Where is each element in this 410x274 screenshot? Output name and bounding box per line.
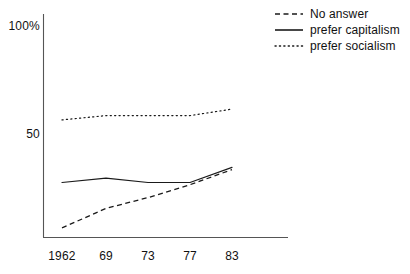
legend-swatch-dashed-icon <box>274 8 304 20</box>
y-axis-tick-100: 100% <box>4 19 40 33</box>
legend-item-prefer-capitalism: prefer capitalism <box>274 22 408 37</box>
legend-label-no-answer: No answer <box>310 7 368 21</box>
x-axis-tick-73: 73 <box>141 249 155 263</box>
x-axis-tick-69: 69 <box>99 249 113 263</box>
x-axis-tick-77: 77 <box>183 249 197 263</box>
legend-item-prefer-socialism: prefer socialism <box>274 38 408 53</box>
chart-container: 100% 50 1962 69 73 77 83 No answer prefe… <box>0 0 410 274</box>
y-axis-tick-50: 50 <box>4 127 40 141</box>
x-axis-tick-83: 83 <box>225 249 239 263</box>
x-axis-tick-1962: 1962 <box>48 249 76 263</box>
legend-swatch-dotted-icon <box>274 40 304 52</box>
legend-label-prefer-socialism: prefer socialism <box>310 39 396 53</box>
series-line-prefer-capitalism <box>62 167 232 182</box>
legend-label-prefer-capitalism: prefer capitalism <box>310 23 400 37</box>
legend-swatch-solid-icon <box>274 24 304 36</box>
series-line-no-answer <box>62 170 232 228</box>
chart-legend: No answer prefer capitalism prefer socia… <box>274 6 408 54</box>
legend-item-no-answer: No answer <box>274 6 408 21</box>
series-line-prefer-socialism <box>62 109 232 120</box>
